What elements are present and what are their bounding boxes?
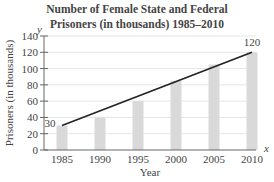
x-tick-label: 1995: [127, 153, 150, 165]
bar: [209, 65, 220, 151]
x-tick-label: 2000: [165, 153, 188, 165]
trend-line: [62, 52, 252, 125]
x-tick-label: 1985: [51, 153, 74, 165]
x-tick-label: 1990: [89, 153, 112, 165]
bar: [95, 117, 106, 150]
gridlines: [44, 36, 256, 134]
axes: [44, 36, 256, 150]
y-tick-label: 60: [27, 95, 39, 107]
x-tick-label: 2010: [241, 153, 264, 165]
y-axis-variable: y: [36, 23, 42, 35]
bar: [171, 81, 182, 150]
y-axis-label: Prisoners (in thousands): [3, 40, 16, 147]
y-tick-label: 80: [27, 79, 39, 91]
data-label: 30: [45, 117, 57, 129]
x-tick-label: 2005: [203, 153, 226, 165]
bar-chart: 020406080100120140 198519901995200020052…: [0, 0, 274, 182]
y-tick-label: 40: [27, 111, 39, 123]
y-tick-label: 100: [22, 63, 39, 75]
bar: [133, 101, 144, 150]
y-tick-label: 120: [22, 46, 39, 58]
annotations: 30120: [45, 36, 261, 128]
bar: [247, 52, 258, 150]
y-tick-label: 140: [22, 30, 39, 42]
x-axis-variable: x: [263, 142, 269, 154]
bar: [57, 126, 68, 150]
y-tick-label: 0: [33, 144, 39, 156]
x-axis-label: Year: [140, 166, 161, 178]
y-tick-label: 20: [27, 128, 39, 140]
x-tick-labels: 198519901995200020052010: [51, 153, 264, 165]
data-label: 120: [244, 36, 261, 48]
